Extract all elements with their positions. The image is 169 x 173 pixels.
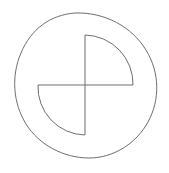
- line-drawing-figure: [0, 0, 169, 173]
